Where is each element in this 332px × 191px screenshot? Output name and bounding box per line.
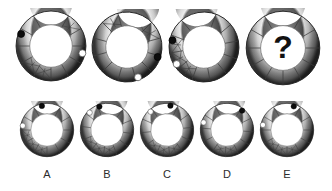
answer-option-label-e: E xyxy=(258,168,316,180)
sequence-ring-1 xyxy=(13,8,89,84)
answer-option-label-c: C xyxy=(138,168,196,180)
answer-option-label-d: D xyxy=(198,168,256,180)
answer-option-c[interactable] xyxy=(138,101,196,159)
sequence-ring-unknown: ? xyxy=(243,8,323,88)
answer-option-d[interactable] xyxy=(198,101,256,159)
ring-pattern-puzzle: ?ABCDE xyxy=(0,0,332,191)
answer-option-a[interactable] xyxy=(18,101,76,159)
sequence-ring-2 xyxy=(89,9,165,85)
svg-text:?: ? xyxy=(273,29,293,65)
answer-option-b[interactable] xyxy=(78,101,136,159)
answer-option-label-b: B xyxy=(78,168,136,180)
answer-option-e[interactable] xyxy=(258,101,316,159)
sequence-ring-3 xyxy=(166,9,242,85)
answer-option-label-a: A xyxy=(18,168,76,180)
